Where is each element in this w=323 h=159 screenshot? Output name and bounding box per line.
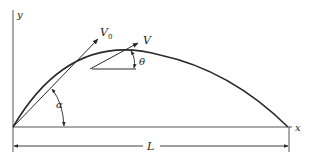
theta-arc: [131, 51, 135, 68]
range-label: L: [146, 140, 154, 153]
initial-velocity-label: V0: [100, 26, 112, 41]
x-axis-label: x: [295, 122, 301, 133]
velocity-arrow: [90, 43, 138, 69]
alpha-label: α: [56, 99, 63, 110]
velocity-label: V: [143, 34, 152, 47]
trajectory-curve: [13, 50, 288, 127]
y-axis-label: y: [16, 9, 23, 20]
projectile-diagram: y x V0 V θ α L: [0, 0, 323, 159]
theta-label: θ: [139, 56, 145, 67]
initial-velocity-arrow: [13, 39, 98, 127]
